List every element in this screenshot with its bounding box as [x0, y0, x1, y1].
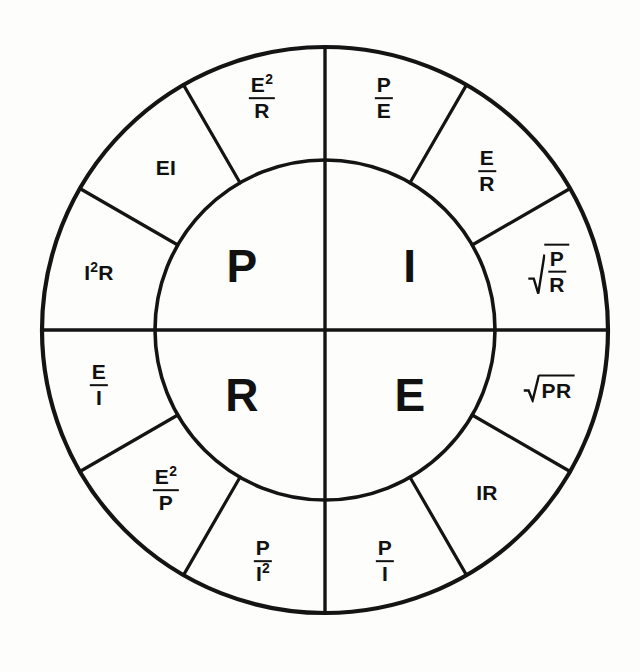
- fraction-numerator: E2: [249, 74, 275, 99]
- fraction-denominator: I: [94, 386, 104, 409]
- fraction-denominator: I: [380, 562, 390, 585]
- ring-formula-e-squared-over-p: E2 P: [153, 466, 179, 514]
- radicand: P R: [544, 244, 569, 296]
- radicand: PR: [539, 375, 575, 403]
- core-quadrant-current: I: [403, 243, 416, 289]
- radical-group: P R: [528, 244, 569, 296]
- fraction-denominator: R: [252, 99, 271, 122]
- spoke-120deg: [184, 85, 241, 183]
- exponent-symbol: 2: [90, 259, 98, 275]
- numerator-exponent: 2: [265, 71, 273, 87]
- fraction-e-over-i: E I: [90, 361, 108, 409]
- core-quadrant-resistance: R: [225, 372, 259, 418]
- ring-formula-p-over-i: P I: [376, 537, 394, 585]
- fraction-denominator: I2: [254, 562, 272, 585]
- core-quadrant-power: P: [226, 243, 257, 289]
- fraction-numerator: E: [478, 147, 496, 172]
- ring-formula-sqrt-p-over-r: P R: [528, 244, 569, 299]
- spoke-30deg: [472, 189, 570, 246]
- radical-group: PR: [524, 375, 575, 403]
- fraction-numerator: P: [376, 537, 394, 562]
- spoke-210deg: [80, 415, 178, 472]
- fraction-p-over-i2: P I2: [254, 537, 272, 585]
- core-quadrant-voltage: E: [394, 372, 425, 418]
- spoke-240deg: [184, 477, 241, 575]
- fraction-numerator: P: [375, 74, 393, 99]
- ring-formula-e-squared-over-r: E2 R: [249, 74, 275, 122]
- radical-sign-icon: [528, 244, 545, 296]
- fraction-e-over-r: E R: [477, 147, 496, 195]
- ring-formula-sqrt-pr: PR: [524, 375, 575, 406]
- wheel-geometry: [0, 0, 640, 672]
- fraction-denominator: E: [375, 99, 393, 122]
- fraction-numerator: P: [254, 537, 272, 562]
- numerator-exponent: 2: [169, 463, 177, 479]
- radical-sign-icon: [524, 375, 540, 403]
- spoke-300deg: [410, 477, 467, 575]
- ohms-law-wheel-diagram: P I R E E2 R EI I2R P E E R: [0, 0, 640, 672]
- fraction-e2-over-p: E2 P: [153, 466, 179, 514]
- ring-formula-i-squared-r: I2R: [84, 262, 114, 283]
- denominator-exponent: 2: [262, 560, 270, 576]
- fraction-e2-over-r: E2 R: [249, 74, 275, 122]
- fraction-p-over-i: P I: [376, 537, 394, 585]
- fraction-p-over-e: P E: [375, 74, 393, 122]
- ring-formula-e-over-r: E R: [477, 147, 496, 195]
- fraction-p-over-r: P R: [547, 248, 566, 296]
- tail-symbol: R: [98, 261, 113, 284]
- numerator-symbol: E: [251, 73, 265, 96]
- spoke-150deg: [80, 189, 178, 246]
- ring-formula-p-over-i-squared: P I2: [254, 537, 272, 585]
- ring-formula-e-over-i: E I: [90, 361, 108, 409]
- ring-formula-e-times-i: EI: [156, 157, 176, 178]
- spoke-330deg: [472, 415, 570, 472]
- ring-formula-p-over-e: P E: [375, 74, 393, 122]
- fraction-numerator: P: [548, 248, 566, 273]
- spoke-60deg: [410, 85, 467, 183]
- fraction-denominator: R: [477, 172, 496, 195]
- fraction-denominator: P: [157, 491, 175, 514]
- ring-formula-i-times-r: IR: [476, 482, 498, 503]
- numerator-symbol: E: [155, 465, 169, 488]
- fraction-numerator: E2: [153, 466, 179, 491]
- fraction-denominator: R: [547, 273, 566, 296]
- fraction-numerator: E: [90, 361, 108, 386]
